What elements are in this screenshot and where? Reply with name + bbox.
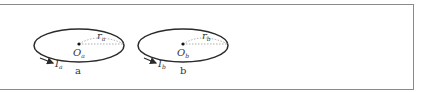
center-point-a — [77, 42, 80, 45]
center-point-b — [181, 42, 184, 45]
center-label-b: Ob — [177, 47, 189, 59]
loop-a: ra Oa Ia a — [34, 29, 124, 76]
diagram-canvas: ra Oa Ia a rb Ob Ib b — [0, 0, 429, 92]
loop-b: rb Ob Ib b — [138, 29, 228, 76]
current-label-b: Ib — [157, 58, 166, 70]
caption-a: a — [75, 65, 81, 76]
current-label-a: Ia — [54, 58, 63, 70]
center-label-a: Oa — [73, 47, 85, 59]
caption-b: b — [180, 65, 186, 76]
